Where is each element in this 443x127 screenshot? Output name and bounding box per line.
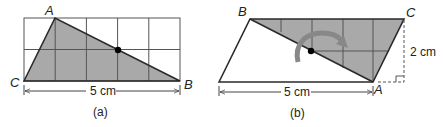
figure-b: B C A 2 cm 5 cm (b) bbox=[219, 4, 436, 120]
caption-a: (a) bbox=[93, 105, 108, 119]
figure-a: A C B 5 cm (a) bbox=[10, 3, 193, 119]
vertex-label-b: B bbox=[184, 77, 193, 92]
vertex-label-c: C bbox=[406, 5, 416, 20]
caption-b: (b) bbox=[290, 106, 305, 120]
midpoint-dot-a bbox=[115, 47, 121, 53]
vertex-label-a: A bbox=[44, 3, 54, 18]
height-label-b: 2 cm bbox=[410, 45, 436, 59]
width-label-a: 5 cm bbox=[90, 84, 116, 98]
diagram-canvas: A C B 5 cm (a) bbox=[0, 0, 443, 127]
midpoint-dot-b bbox=[308, 48, 314, 54]
width-label-b: 5 cm bbox=[284, 85, 310, 99]
vertex-label-c: C bbox=[10, 75, 20, 90]
vertex-label-a: A bbox=[373, 82, 383, 97]
vertex-label-b: B bbox=[238, 4, 247, 19]
